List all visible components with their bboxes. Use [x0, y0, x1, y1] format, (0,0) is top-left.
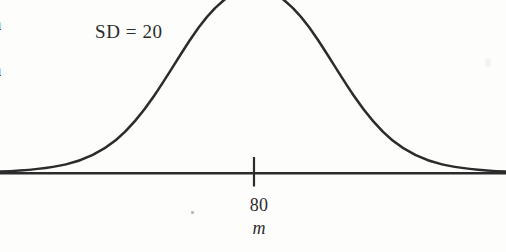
mean-value-label: 80: [250, 196, 269, 214]
normal-curve-path: [0, 0, 506, 172]
scan-speck-artifact-upper-right: [485, 58, 491, 67]
standard-deviation-label: SD = 20: [95, 22, 163, 41]
variable-name-label: m: [253, 219, 266, 237]
clipped-left-glyph-lower: a: [0, 60, 1, 79]
clipped-left-glyph-upper: a: [0, 14, 1, 33]
normal-curve-figure: a a SD = 20 80 m: [0, 0, 506, 252]
scan-speck-artifact-lower-left: [191, 211, 194, 214]
